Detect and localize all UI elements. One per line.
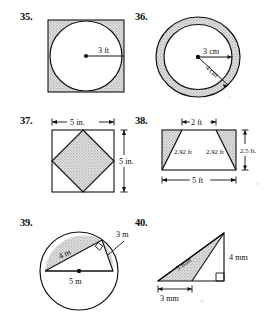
problem-38-figure: 2 ft 2.92 ft 2.92 ft <box>148 108 264 203</box>
top-dimension-38: 2 ft <box>182 117 216 128</box>
problem-40: 40. 5 mm 4 mm <box>134 205 268 314</box>
label-short-leg-39: 3 m <box>116 230 129 239</box>
problem-35-figure: 3 ft <box>44 16 136 96</box>
label-top-38: 2 ft <box>191 118 203 127</box>
label-width-37: 5 in. <box>70 118 85 127</box>
problem-37-number: 37. <box>20 116 33 127</box>
center-dot-39 <box>77 269 81 273</box>
label-height-38: 2.5 ft. <box>240 147 257 154</box>
base-dimension-40: 3 mm <box>158 286 192 304</box>
bottom-dimension-38: 5 ft <box>162 175 236 186</box>
problem-35: 35. 3 ft <box>0 0 134 100</box>
label-radius-35: 3 ft <box>98 46 110 55</box>
label-right-leg-38: 2.92 ft <box>206 148 224 155</box>
worksheet-page: 35. 3 ft 36. <box>0 0 268 314</box>
problem-36: 36. 3 cm 4 cm <box>134 0 268 100</box>
problem-36-number: 36. <box>135 12 148 23</box>
problem-35-number: 35. <box>20 12 33 23</box>
problem-40-figure: 5 mm 4 mm 3 mm <box>148 219 264 314</box>
problem-39: 39. 4 m 3 m <box>0 205 134 314</box>
right-angle-marker-39 <box>95 243 103 251</box>
label-vertical-leg-40: 4 mm <box>229 253 249 262</box>
problem-39-figure: 4 m 3 m 5 m <box>32 219 136 314</box>
top-dimension-37: 5 in. <box>52 117 114 128</box>
problem-37-figure: 5 in. 5 in. <box>40 108 136 203</box>
problem-40-number: 40. <box>135 218 148 229</box>
scan-speck <box>256 182 259 185</box>
height-dimension-38: 2.5 ft. <box>240 130 264 170</box>
label-inner-radius-36: 3 cm <box>203 47 220 56</box>
problem-38: 38. 2 ft <box>134 100 268 205</box>
label-diameter-39: 5 m <box>69 277 82 286</box>
scan-speck <box>200 300 204 303</box>
right-angle-marker-40 <box>216 273 224 281</box>
problem-39-number: 39. <box>20 218 33 229</box>
label-base-segment-40: 3 mm <box>160 294 180 303</box>
label-height-37: 5 in. <box>119 157 134 166</box>
problem-38-number: 38. <box>135 116 148 127</box>
label-left-leg-38: 2.92 ft <box>174 148 192 155</box>
problem-36-figure: 3 cm 4 cm <box>148 14 252 100</box>
problem-37: 37. 5 in. <box>0 100 134 205</box>
scan-speck <box>228 96 231 98</box>
label-bottom-38: 5 ft <box>192 176 204 185</box>
